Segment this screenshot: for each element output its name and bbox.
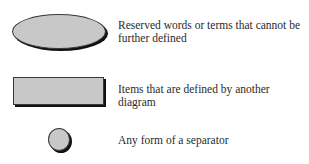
ellipse-description: Reserved words or terms that cannot be f… — [118, 19, 303, 44]
ellipse-symbol — [12, 14, 106, 49]
rectangle-symbol — [13, 77, 104, 105]
rectangle-description: Items that are defined by another diagra… — [118, 83, 303, 108]
circle-symbol — [48, 128, 70, 151]
circle-description: Any form of a separator — [118, 134, 303, 147]
